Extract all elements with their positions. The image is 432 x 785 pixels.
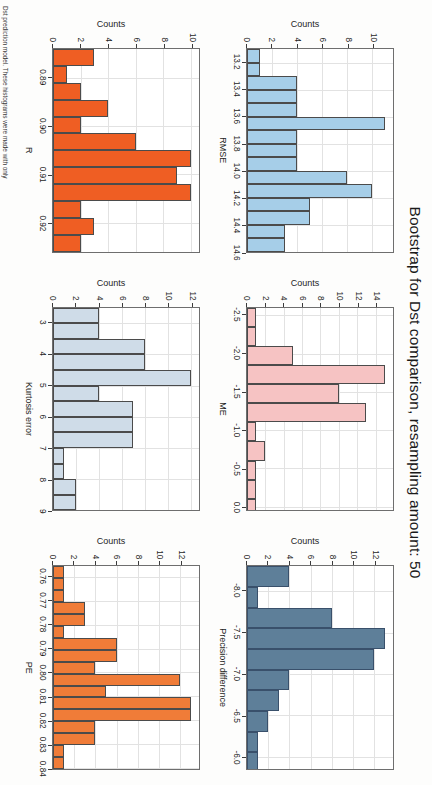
y-axis-tick (75, 303, 76, 307)
x-axis-tick-label: -6.5 (232, 709, 241, 723)
y-axis-title: Counts (291, 537, 320, 547)
y-axis-tick-label: 6 (112, 555, 121, 560)
bar-series (53, 308, 199, 511)
plot-area (246, 48, 394, 253)
x-axis-tick-label: 14.0 (232, 163, 241, 179)
y-axis-tick (192, 44, 193, 48)
x-axis-tick (48, 126, 52, 127)
x-axis-tick-label: 5 (38, 383, 47, 388)
y-axis-tick (358, 303, 359, 307)
y-axis-tick-label: 8 (159, 37, 168, 42)
y-axis-tick (246, 561, 247, 565)
y-axis-tick-label: 10 (368, 33, 377, 42)
y-axis-tick-label: 4 (279, 296, 288, 301)
x-axis-tick-label: -0.5 (232, 462, 241, 476)
histogram-bar (53, 323, 99, 339)
gridline-vertical (53, 510, 199, 511)
histogram-bar (247, 76, 297, 90)
figure-title: Bootstrap for Dst comparison, resampling… (406, 0, 424, 785)
histogram-bar (53, 49, 94, 66)
y-axis-tick (283, 303, 284, 307)
y-axis-tick-label: 2 (69, 555, 78, 560)
x-axis-tick (242, 632, 246, 633)
y-axis-tick (265, 303, 266, 307)
y-axis-tick (332, 561, 333, 565)
x-axis-tick-label: 14.4 (232, 217, 241, 233)
x-axis-title: R (24, 48, 34, 253)
x-axis-tick (242, 507, 246, 508)
histogram-bar (247, 130, 297, 144)
y-axis-tick (52, 303, 53, 307)
histogram-bar (53, 590, 64, 602)
y-axis-tick-label: 2 (263, 555, 272, 560)
histogram-bar (53, 386, 99, 402)
figure-canvas: Bootstrap for Dst comparison, resampling… (0, 0, 432, 785)
y-axis-tick (267, 561, 268, 565)
x-axis-tick (242, 116, 246, 117)
y-axis-tick-label: 10 (187, 33, 196, 42)
x-axis-tick-label: 6 (38, 415, 47, 420)
y-axis-tick-label: 4 (292, 37, 301, 42)
y-axis-tick (339, 303, 340, 307)
histogram-bar (247, 670, 289, 691)
y-axis-tick (348, 44, 349, 48)
y-axis-tick (373, 44, 374, 48)
x-axis-tick (48, 480, 52, 481)
histogram-bar (247, 499, 256, 511)
y-axis-tick (122, 303, 123, 307)
histogram-bar (247, 480, 256, 499)
histogram-bar (53, 201, 81, 218)
y-axis-tick-label: 0 (242, 296, 251, 301)
y-axis-tick (375, 561, 376, 565)
x-axis-tick-label: -7.5 (232, 625, 241, 639)
x-axis-tick-label: 0.84 (38, 761, 47, 777)
x-axis-tick-label: 14.2 (232, 190, 241, 206)
histogram-bar (247, 384, 339, 403)
x-axis-tick-label: 0.79 (38, 640, 47, 656)
x-axis-tick-label: 0.0 (232, 502, 241, 513)
x-axis-tick-label: 0.76 (38, 568, 47, 584)
x-axis-tick-label: -6.0 (232, 750, 241, 764)
bar-series (53, 49, 199, 252)
histogram-bar (53, 218, 94, 235)
y-axis-tick-label: 6 (297, 296, 306, 301)
y-axis-tick (52, 44, 53, 48)
y-axis-tick (52, 561, 53, 565)
x-axis-tick-label: 7 (38, 446, 47, 451)
x-axis-tick (48, 576, 52, 577)
histogram-bar (53, 674, 180, 686)
histogram-bar (247, 184, 372, 198)
x-axis-tick-label: 13.8 (232, 136, 241, 152)
bar-series (247, 566, 393, 769)
histogram-bar (53, 686, 106, 698)
x-axis-tick-label: -2.0 (232, 346, 241, 360)
x-axis-title: ME (218, 307, 228, 512)
y-axis-tick-label: 14 (372, 292, 381, 301)
y-axis-tick (168, 303, 169, 307)
y-axis-tick (310, 561, 311, 565)
x-axis-tick-label: -8.0 (232, 583, 241, 597)
histogram-bar (247, 422, 256, 441)
histogram-bar (247, 308, 256, 327)
y-axis-tick-label: 6 (318, 37, 327, 42)
x-axis-tick (242, 674, 246, 675)
histogram-bar (53, 709, 191, 721)
x-axis-tick-label: 8 (38, 478, 47, 483)
histogram-bar (53, 614, 85, 626)
y-axis-tick (302, 303, 303, 307)
y-axis-tick (192, 303, 193, 307)
y-axis-tick-label: 2 (260, 296, 269, 301)
y-axis-tick-label: 2 (75, 37, 84, 42)
x-axis-tick (242, 253, 246, 254)
y-axis-tick (246, 44, 247, 48)
x-axis-tick-label: -1.5 (232, 385, 241, 399)
histogram-bar (247, 628, 385, 649)
y-axis-tick-label: 8 (316, 296, 325, 301)
histogram-bar (53, 697, 191, 709)
y-axis-tick (145, 303, 146, 307)
histogram-bar (53, 432, 133, 448)
plot-area (52, 48, 200, 253)
x-axis-tick-label: 0.90 (38, 118, 47, 134)
y-axis-tick-label: 12 (187, 292, 196, 301)
y-axis-tick-label: 0 (48, 296, 57, 301)
